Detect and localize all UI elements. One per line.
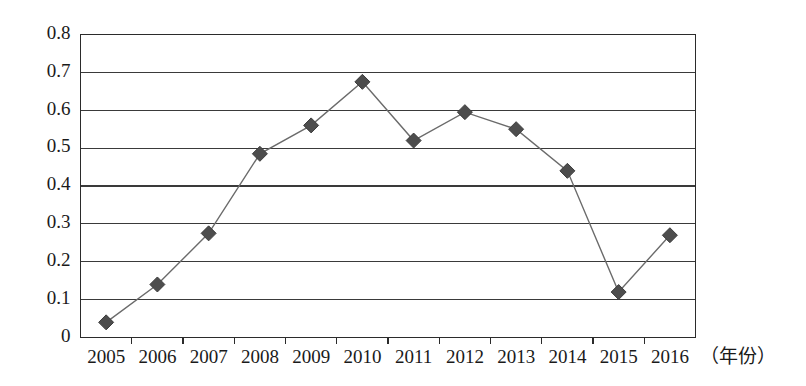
y-tick-label: 0.6 bbox=[47, 98, 71, 119]
y-tick-label: 0.2 bbox=[47, 249, 71, 270]
data-point-markers bbox=[99, 74, 678, 330]
y-tick-label: 0.5 bbox=[47, 135, 71, 156]
x-axis-tick-labels: 2005200620072008200920102011201220132014… bbox=[87, 346, 689, 367]
y-tick-label: 0.3 bbox=[47, 211, 71, 232]
series-polyline bbox=[106, 82, 670, 323]
gridlines bbox=[81, 35, 696, 300]
x-tick-label: 2013 bbox=[497, 346, 535, 367]
data-point-marker bbox=[99, 315, 114, 330]
x-tick-label: 2009 bbox=[292, 346, 330, 367]
x-tick-label: 2006 bbox=[138, 346, 176, 367]
y-tick-label: 0.4 bbox=[47, 173, 71, 194]
x-tick-label: 2016 bbox=[651, 346, 689, 367]
x-tick-label: 2008 bbox=[241, 346, 279, 367]
x-tick-label: 2007 bbox=[190, 346, 228, 367]
y-tick-label: 0.1 bbox=[47, 287, 71, 308]
line-chart: 00.10.20.30.40.50.60.70.8 20052006200720… bbox=[0, 0, 806, 386]
x-tick-label: 2010 bbox=[343, 346, 381, 367]
chart-canvas: 00.10.20.30.40.50.60.70.8 20052006200720… bbox=[0, 0, 806, 386]
x-tick-label: 2011 bbox=[395, 346, 432, 367]
x-axis-unit-label: （年份） bbox=[700, 346, 776, 367]
data-point-marker bbox=[560, 163, 575, 178]
data-series-line bbox=[106, 82, 670, 323]
x-tick-label: 2014 bbox=[548, 346, 587, 367]
data-point-marker bbox=[509, 122, 524, 137]
y-tick-label: 0.7 bbox=[47, 60, 71, 81]
y-tick-label: 0.8 bbox=[47, 22, 71, 43]
y-tick-label: 0 bbox=[61, 325, 71, 346]
x-axis-unit-label-text: （年份） bbox=[700, 346, 776, 367]
x-axis-tickmarks bbox=[132, 338, 645, 344]
x-tick-label: 2012 bbox=[446, 346, 484, 367]
x-tick-label: 2005 bbox=[87, 346, 125, 367]
y-axis-tick-labels: 00.10.20.30.40.50.60.70.8 bbox=[47, 22, 71, 346]
data-point-marker bbox=[457, 105, 472, 120]
x-tick-label: 2015 bbox=[600, 346, 638, 367]
